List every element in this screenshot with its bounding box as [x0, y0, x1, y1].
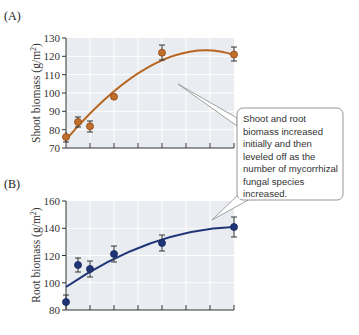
- panel-a-label: (A): [4, 9, 21, 23]
- tick-label: 100: [44, 87, 61, 99]
- data-point: [231, 224, 238, 231]
- data-point: [63, 134, 70, 141]
- tick-label: 160: [44, 195, 61, 207]
- figure: (A): [0, 0, 359, 335]
- data-point: [159, 49, 166, 56]
- callout-line: leveled off as the: [243, 151, 315, 162]
- tick-label: 140: [44, 222, 61, 234]
- data-point: [75, 119, 82, 126]
- tick-label: 120: [44, 50, 61, 62]
- data-point: [159, 240, 166, 247]
- data-point: [87, 266, 94, 273]
- data-point: [231, 51, 238, 58]
- tick-label: 120: [44, 250, 61, 262]
- panel-b-label: (B): [4, 177, 20, 191]
- tick-label: 100: [44, 277, 61, 289]
- data-point: [111, 93, 118, 100]
- callout-line: increased.: [243, 188, 287, 199]
- data-point: [111, 251, 118, 258]
- panel-b: (B): [4, 177, 238, 316]
- data-point: [75, 262, 82, 269]
- y-axis-title-b: Root biomass (g/m2): [29, 207, 43, 303]
- data-point: [63, 299, 70, 306]
- panel-a: (A): [4, 9, 238, 154]
- tick-label: 130: [44, 32, 61, 44]
- tick-label: 80: [49, 124, 61, 136]
- callout-line: number of mycorrhizal: [243, 163, 338, 174]
- callout-line: initially and then: [243, 138, 312, 149]
- callout-line: biomass increased: [243, 126, 323, 137]
- callout-line: Shoot and root: [243, 113, 306, 124]
- tick-label: 80: [49, 304, 61, 316]
- tick-label: 70: [49, 142, 61, 154]
- y-tick-labels-a: 130 120 110 100 90 80 70: [44, 32, 61, 154]
- callout-line: fungal species: [243, 176, 305, 187]
- y-tick-labels-b: 160 140 120 100 80: [44, 195, 61, 316]
- data-point: [87, 123, 94, 130]
- tick-label: 110: [44, 69, 61, 81]
- y-axis-title-a: Shoot biomass (g/m2): [29, 43, 43, 143]
- tick-label: 90: [49, 105, 61, 117]
